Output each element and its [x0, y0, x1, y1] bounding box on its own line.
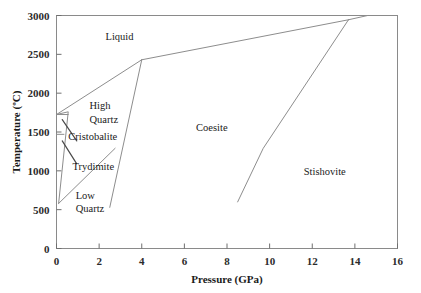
- x-tick-label-12: 12: [307, 255, 319, 267]
- x-tick-label-16: 16: [392, 255, 404, 267]
- y-axis-title: Temperature (ºC): [10, 90, 23, 173]
- y-tick-label-1500: 1500: [28, 126, 51, 138]
- phase-label-stishovite: Stishovite: [304, 166, 346, 177]
- phase-label-low: Low: [76, 190, 96, 201]
- x-tick-label-8: 8: [224, 255, 230, 267]
- y-tick-label-500: 500: [33, 204, 50, 216]
- x-tick-label-2: 2: [96, 255, 102, 267]
- boundary-liquidus-stishovite: [348, 16, 367, 20]
- y-tick-label-0: 0: [44, 243, 50, 255]
- y-tick-label-3000: 3000: [28, 10, 51, 22]
- phase-label-trydimite: Trydimite: [72, 161, 114, 172]
- x-tick-label-14: 14: [349, 255, 361, 267]
- phase-label-quartz: Quartz: [90, 114, 119, 125]
- phase-diagram-plot: 0246810121416050010001500200025003000 Li…: [0, 0, 421, 293]
- phase-label-coesite: Coesite: [196, 122, 228, 133]
- phase-field-labels: LiquidHighQuartzCristobaliteTrydimiteLow…: [68, 31, 346, 214]
- boundary-liquidus-coesite: [142, 20, 349, 60]
- phase-label-liquid: Liquid: [106, 31, 135, 42]
- phase-label-high: High: [90, 100, 112, 111]
- x-tick-label-0: 0: [54, 255, 60, 267]
- x-tick-label-10: 10: [264, 255, 276, 267]
- y-tick-label-1000: 1000: [28, 165, 51, 177]
- y-tick-label-2500: 2500: [28, 48, 51, 60]
- phase-diagram-figure: 0246810121416050010001500200025003000 Li…: [0, 0, 421, 293]
- x-tick-label-6: 6: [182, 255, 188, 267]
- x-axis-title: Pressure (GPa): [191, 273, 263, 286]
- phase-label-quartz: Quartz: [76, 203, 105, 214]
- phase-label-cristobalite: Cristobalite: [68, 131, 117, 142]
- y-tick-label-2000: 2000: [28, 87, 51, 99]
- x-tick-label-4: 4: [139, 255, 145, 267]
